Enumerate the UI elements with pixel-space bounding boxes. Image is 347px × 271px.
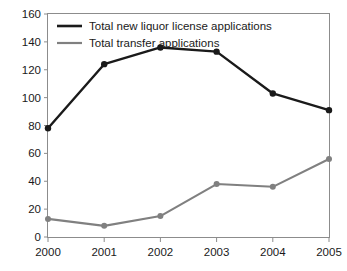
x-tick-label: 2004: [260, 246, 286, 258]
x-tick-label: 2000: [35, 246, 61, 258]
y-tick-label: 100: [22, 92, 41, 104]
y-tick-label: 40: [28, 175, 41, 187]
series-line: [48, 47, 329, 128]
data-point-marker: [326, 107, 332, 113]
x-tick-label: 2001: [91, 246, 117, 258]
series-1: [45, 44, 332, 131]
y-tick-label: 20: [28, 203, 41, 215]
data-point-marker: [157, 213, 163, 219]
y-tick-label: 0: [35, 231, 41, 243]
legend-label: Total new liquor license applications: [89, 20, 272, 32]
series-layer: [45, 44, 332, 229]
x-tick-label: 2003: [204, 246, 230, 258]
data-point-marker: [45, 125, 51, 131]
chart-legend: Total new liquor license applicationsTot…: [57, 20, 272, 49]
chart-canvas: 020406080100120140160 200020012002200320…: [0, 0, 347, 271]
data-point-marker: [45, 216, 51, 222]
x-tick-label: 2005: [316, 246, 342, 258]
data-point-marker: [270, 90, 276, 96]
data-point-marker: [101, 61, 107, 67]
y-axis-tick-labels: 020406080100120140160: [22, 8, 41, 243]
legend-label: Total transfer applications: [89, 37, 220, 49]
x-axis-tick-labels: 200020012002200320042005: [35, 246, 342, 258]
data-point-marker: [214, 181, 220, 187]
y-tick-label: 160: [22, 8, 41, 20]
data-point-marker: [101, 223, 107, 229]
x-tick-label: 2002: [148, 246, 174, 258]
line-chart: 020406080100120140160 200020012002200320…: [0, 0, 347, 271]
data-point-marker: [270, 184, 276, 190]
data-point-marker: [326, 156, 332, 162]
y-tick-label: 140: [22, 36, 41, 48]
y-tick-label: 80: [28, 120, 41, 132]
series-line: [48, 159, 329, 226]
y-tick-label: 60: [28, 147, 41, 159]
y-tick-label: 120: [22, 64, 41, 76]
data-point-marker: [213, 48, 219, 54]
series-2: [45, 156, 332, 229]
